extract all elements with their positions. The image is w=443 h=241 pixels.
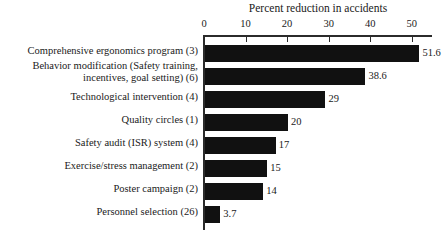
bar-category-label: Poster campaign (2) bbox=[3, 183, 198, 196]
x-axis-tick-mark bbox=[412, 37, 413, 42]
bar bbox=[205, 91, 325, 108]
bar-category-label-line: Behavior modification (Safety training, bbox=[3, 60, 198, 72]
bar-category-label: Technological intervention (4) bbox=[3, 91, 198, 104]
bar-value-label: 15 bbox=[270, 161, 281, 175]
bar-chart: Percent reduction in accidents 010203040… bbox=[0, 0, 443, 241]
x-axis-tick-mark bbox=[246, 37, 247, 42]
bar bbox=[205, 68, 365, 85]
bar-category-label-line: incentives, goal setting) (6) bbox=[3, 72, 198, 84]
bar bbox=[205, 183, 263, 200]
bar-value-label: 51.6 bbox=[422, 46, 440, 60]
x-axis-tick-mark bbox=[370, 37, 371, 42]
bar-row: Personnel selection (26)3.7 bbox=[0, 203, 443, 226]
bar-category-label: Comprehensive ergonomics program (3) bbox=[3, 45, 198, 58]
bar-row: Poster campaign (2)14 bbox=[0, 180, 443, 203]
bar-value-label: 38.6 bbox=[368, 69, 386, 83]
bar-row: Technological intervention (4)29 bbox=[0, 88, 443, 111]
x-axis-tick-mark bbox=[287, 37, 288, 42]
bar-value-label: 14 bbox=[266, 184, 277, 198]
bar bbox=[205, 160, 267, 177]
bar-category-label: Exercise/stress management (2) bbox=[3, 160, 198, 173]
bar-row: Behavior modification (Safety training,i… bbox=[0, 65, 443, 88]
bar-row: Safety audit (ISR) system (4)17 bbox=[0, 134, 443, 157]
bar-value-label: 3.7 bbox=[223, 207, 236, 221]
plot-area: Comprehensive ergonomics program (3)51.6… bbox=[0, 0, 443, 241]
bar bbox=[205, 45, 419, 62]
bar bbox=[205, 206, 220, 223]
bar-row: Quality circles (1)20 bbox=[0, 111, 443, 134]
bar-value-label: 17 bbox=[279, 138, 290, 152]
bar-value-label: 29 bbox=[328, 92, 339, 106]
bar-category-label: Behavior modification (Safety training,i… bbox=[3, 60, 198, 84]
bar-category-label: Personnel selection (26) bbox=[3, 206, 198, 219]
bar bbox=[205, 137, 276, 154]
bar-category-label: Safety audit (ISR) system (4) bbox=[3, 137, 198, 150]
bar-row: Exercise/stress management (2)15 bbox=[0, 157, 443, 180]
x-axis-tick-mark bbox=[329, 37, 330, 42]
bar bbox=[205, 114, 288, 131]
bar-value-label: 20 bbox=[291, 115, 302, 129]
bar-category-label: Quality circles (1) bbox=[3, 114, 198, 127]
